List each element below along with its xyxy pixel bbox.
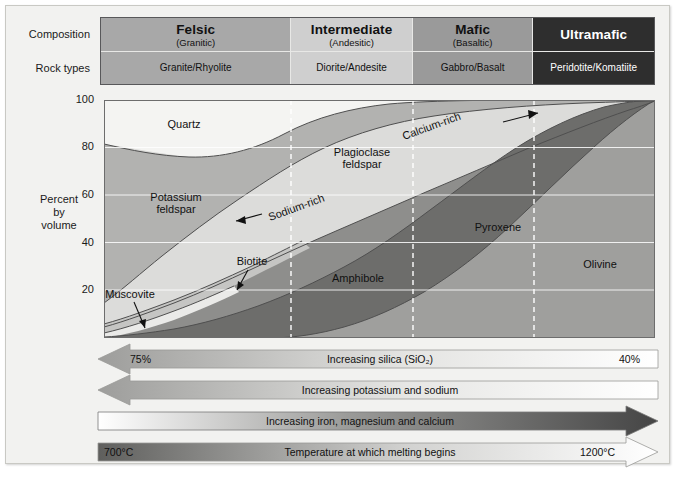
trend-arrow-bars — [0, 0, 680, 479]
igneous-composition-figure: Composition Rock types Felsic (Granitic)… — [0, 0, 680, 479]
bar-temperature-right-value: 1200°C — [580, 446, 615, 458]
bar-silica-right-value: 40% — [619, 353, 640, 365]
bar-temperature-left-value: 700°C — [104, 446, 133, 458]
bar-potassium-sodium-label: Increasing potassium and sodium — [180, 384, 580, 396]
bar-silica-label: Increasing silica (SiO₂) — [180, 353, 580, 365]
bar-silica-left-value: 75% — [130, 353, 151, 365]
bar-iron-magnesium-calcium-label: Increasing iron, magnesium and calcium — [150, 415, 570, 427]
bar-temperature-label: Temperature at which melting begins — [170, 446, 570, 458]
